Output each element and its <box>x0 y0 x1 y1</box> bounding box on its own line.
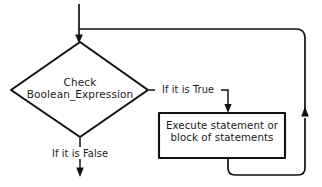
entry-connector <box>75 4 83 44</box>
loopback-arrowhead <box>301 107 309 117</box>
decision-label-line-2: Boolean_Expression <box>11 88 149 100</box>
false-branch-arrowhead <box>76 168 84 178</box>
true-branch-arrowhead <box>224 104 231 113</box>
process-label-line-1: Execute statement or <box>160 120 284 132</box>
flowchart-diagram: Check Boolean_Expression Execute stateme… <box>0 0 322 187</box>
process-node-label: Execute statement or block of statements <box>160 120 284 144</box>
process-label-line-2: block of statements <box>160 132 284 144</box>
decision-label-line-1: Check <box>11 76 149 88</box>
decision-node-label: Check Boolean_Expression <box>11 76 149 101</box>
true-branch-label: If it is True <box>152 84 224 96</box>
false-branch-label: If it is False <box>40 148 120 160</box>
loopback-top-connector <box>79 29 309 117</box>
